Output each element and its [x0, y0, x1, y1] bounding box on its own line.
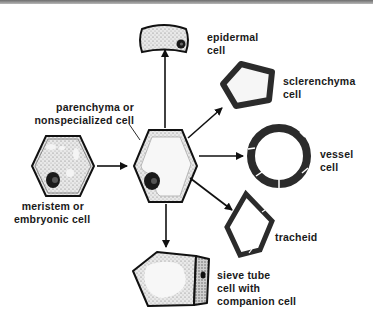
parenchyma-label-line2: nonspecialized cell [30, 114, 134, 127]
vessel-label-line2: cell [320, 161, 353, 174]
vessel-label-line1: vessel [320, 148, 353, 161]
epidermal-cell [140, 25, 188, 52]
arrow-to-tracheid [190, 178, 232, 210]
meristem-label: meristem or embryonic cell [14, 200, 84, 226]
epidermal-label-line1: epidermal [207, 31, 258, 44]
arrow-to-sclerenchyma [188, 108, 222, 138]
epidermal-label: epidermal cell [207, 31, 258, 57]
sieve-tube-label-line2: cell with [217, 282, 296, 295]
sieve-tube-label-line1: sieve tube [217, 269, 296, 282]
tracheid-label: tracheid [275, 231, 317, 244]
epidermal-label-line2: cell [207, 44, 258, 57]
sclerenchyma-label-line1: sclerenchyma [283, 75, 355, 88]
vessel-label: vessel cell [320, 148, 353, 174]
tracheid-label-line1: tracheid [275, 231, 317, 244]
sclerenchyma-label: sclerenchyma cell [283, 75, 355, 101]
meristem-label-line1: meristem or [14, 200, 84, 213]
companion-nucleus-icon [201, 272, 206, 279]
parenchyma-label-line1: parenchyma or [30, 101, 134, 114]
sclerenchyma-label-line2: cell [283, 88, 355, 101]
parenchyma-label: parenchyma or nonspecialized cell [30, 101, 134, 127]
parenchyma-cell [134, 130, 197, 202]
sieve-tube-label: sieve tube cell with companion cell [217, 269, 296, 308]
differentiation-diagram [0, 0, 373, 323]
sclerenchyma-cell [223, 64, 272, 106]
meristem-cell [32, 136, 94, 196]
vessel-cell [248, 128, 308, 188]
sieve-tube-cell [133, 252, 209, 306]
meristem-label-line2: embryonic cell [14, 213, 84, 226]
sieve-tube-label-line3: companion cell [217, 295, 296, 308]
tracheid-cell [227, 194, 272, 255]
